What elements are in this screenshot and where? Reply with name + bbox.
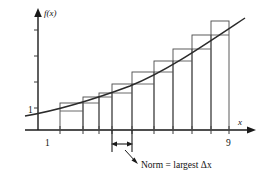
upper-rectangle-3 <box>99 93 112 130</box>
norm-annotation-label: Norm = largest Δx <box>141 160 212 170</box>
y-origin-label: 1 <box>28 105 33 115</box>
y-axis-arrowhead <box>34 8 42 17</box>
upper-rectangle-6 <box>154 61 173 130</box>
upper-rectangle-9 <box>211 21 229 130</box>
riemann-sum-plot: f(x) x 1 1 9 Norm = largest Δx <box>0 0 264 181</box>
x-axis-arrowhead <box>247 126 256 133</box>
function-curve <box>25 18 245 116</box>
lower-rectangles-group <box>60 35 229 111</box>
riemann-sum-figure: f(x) x 1 1 9 Norm = largest Δx <box>0 0 264 181</box>
y-axis-label: f(x) <box>44 8 57 18</box>
x-tick-label-9: 9 <box>226 138 231 148</box>
x-axis-label: x <box>237 117 242 127</box>
upper-rectangles-group <box>60 21 229 130</box>
norm-indicator-group <box>111 130 138 164</box>
x-tick-label-1: 1 <box>45 138 50 148</box>
